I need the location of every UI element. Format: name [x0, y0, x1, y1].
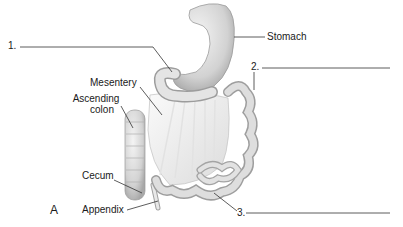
digestive-tract-illustration — [0, 0, 403, 227]
mesentery-label: Mesentery — [90, 77, 137, 88]
mesentery-shape — [148, 92, 229, 185]
blank-2-number: 2. — [251, 61, 259, 72]
blank-3-answer[interactable] — [247, 202, 389, 212]
ascending-colon-label: Ascending colon — [70, 93, 122, 115]
blank-2-answer[interactable] — [263, 57, 389, 67]
appendix-label: Appendix — [82, 204, 124, 215]
panel-letter: A — [50, 205, 58, 216]
cecum-label: Cecum — [82, 170, 114, 181]
blank-1-number: 1. — [8, 40, 16, 51]
stomach-label: Stomach — [267, 31, 306, 42]
blank-3-number: 3. — [237, 207, 245, 218]
blank-1-answer[interactable] — [22, 36, 152, 46]
stomach-shape — [160, 4, 235, 97]
